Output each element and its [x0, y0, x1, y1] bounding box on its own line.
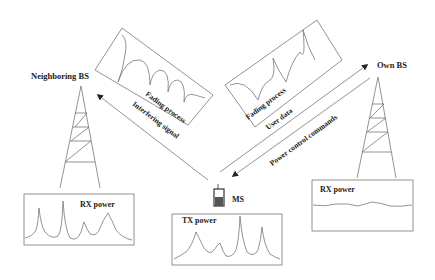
rx-power-neighbor-label: RX power — [80, 200, 115, 209]
fading-panel-left: Fading process — [95, 28, 213, 125]
tx-power-ms-label: TX power — [182, 216, 217, 225]
neighboring-bs-tower-icon — [60, 86, 100, 188]
neighboring-bs-label: Neighboring BS — [31, 71, 89, 81]
own-bs-label: Own BS — [377, 60, 407, 70]
own-bs-tower-icon — [357, 77, 396, 178]
ms-label: MS — [232, 195, 245, 204]
tx-power-panel-ms: TX power — [172, 214, 282, 265]
diagram-canvas: Neighboring BS Own BS Fading process Fad… — [0, 0, 435, 280]
mobile-phone-icon — [214, 184, 224, 206]
rx-power-own-label: RX power — [320, 185, 355, 194]
diagram-svg: Neighboring BS Own BS Fading process Fad… — [0, 0, 435, 280]
rx-power-panel-neighbor: RX power — [24, 194, 134, 245]
rx-power-panel-own: RX power — [312, 180, 413, 231]
